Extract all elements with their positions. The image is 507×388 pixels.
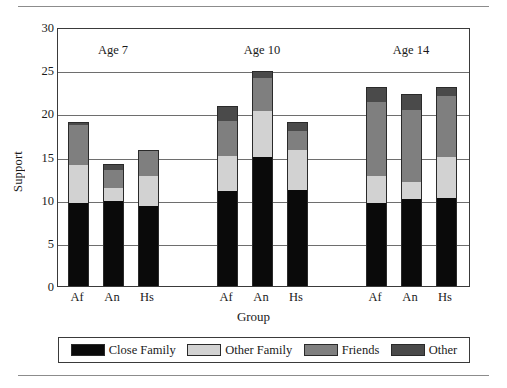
bar-segment [68,203,89,286]
x-tick-label: Af [70,290,83,305]
bar-segment [217,156,238,191]
bar-segment [103,201,124,286]
y-axis-tick-labels: 302520151050 [14,28,54,287]
bar-segment [401,182,422,198]
bar-segment [287,190,308,286]
y-tick-label: 15 [20,151,54,164]
bar-segment [436,87,457,96]
bar-segment [366,102,387,175]
x-tick-label: Af [368,290,381,305]
stacked-bar [401,94,422,286]
bar-segment [436,96,457,156]
y-tick-label: 0 [20,281,54,294]
stacked-bar [217,106,238,286]
bar-segment [138,151,159,176]
x-tick-label: Af [219,290,232,305]
bar-segment [68,165,89,203]
legend-item-3: Other [391,343,457,358]
y-tick-label: 5 [20,238,54,251]
legend-swatch-icon [304,344,338,356]
bar-segment [366,176,387,204]
bar-segment [138,206,159,286]
legend-label: Friends [342,343,380,358]
bar-segment [252,71,273,78]
legend-swatch-icon [187,344,221,356]
panel-label-1: Age 10 [244,43,280,58]
y-tick-label: 30 [20,22,54,35]
x-tick-label: Hs [140,290,154,305]
x-tick-label: An [253,290,268,305]
legend-item-1: Other Family [187,343,292,358]
bar-segment [138,176,159,205]
plot-region: Support Group 302520151050 Age 7Age 10Ag… [0,0,507,330]
bar-segment [103,188,124,200]
stacked-bar [252,71,273,286]
bar-segment [252,157,273,286]
panel-label-2: Age 14 [393,43,429,58]
x-tick-label: Hs [438,290,452,305]
legend-item-0: Close Family [71,343,176,358]
bar-segment [401,199,422,286]
bar-segment [68,125,89,165]
bar-segment [436,198,457,286]
legend-label: Close Family [109,343,176,358]
bar-segment [217,191,238,286]
x-tick-label: Hs [289,290,303,305]
x-tick-label: An [402,290,417,305]
bottom-rule [18,375,489,376]
panel-label-0: Age 7 [98,43,128,58]
bar-segment [287,122,308,131]
legend-label: Other Family [225,343,292,358]
bar-segment [366,87,387,103]
bar-segment [103,170,124,188]
x-axis-title: Group [0,309,507,325]
stacked-bar [68,122,89,286]
x-tick-label: An [104,290,119,305]
y-tick-label: 25 [20,65,54,78]
stacked-bar [366,87,387,286]
legend-swatch-icon [391,344,425,356]
bar-segment [287,131,308,150]
bar-segment [217,106,238,121]
figure: Support Group 302520151050 Age 7Age 10Ag… [0,0,507,388]
bar-segment [287,150,308,191]
legend: Close FamilyOther FamilyFriendsOther [58,337,470,363]
legend-swatch-icon [71,344,105,356]
plot-box: Age 7Age 10Age 14 [57,28,470,287]
legend-item-2: Friends [304,343,380,358]
legend-label: Other [429,343,457,358]
bar-segment [252,78,273,111]
bar-segment [366,203,387,286]
bar-segment [401,94,422,110]
stacked-bar [138,150,159,286]
y-tick-label: 10 [20,194,54,207]
stacked-bar [436,87,457,286]
stacked-bar [103,164,124,286]
stacked-bar [287,122,308,286]
bar-segment [401,110,422,183]
bar-segment [217,121,238,156]
bar-segment [252,111,273,158]
bar-segment [436,157,457,198]
y-tick-label: 20 [20,108,54,121]
